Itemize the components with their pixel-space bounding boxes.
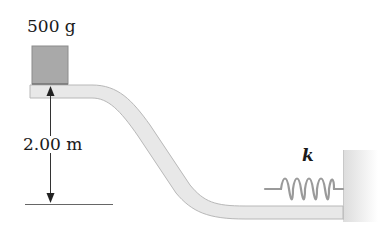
- spring: [265, 179, 343, 200]
- spring-constant-label: k: [302, 147, 314, 164]
- diagram-canvas: 500 g 2.00 m k: [0, 0, 378, 229]
- wall: [343, 150, 378, 222]
- height-label: 2.00 m: [22, 136, 83, 153]
- mass-label: 500 g: [27, 18, 76, 35]
- mass-block: [32, 46, 68, 84]
